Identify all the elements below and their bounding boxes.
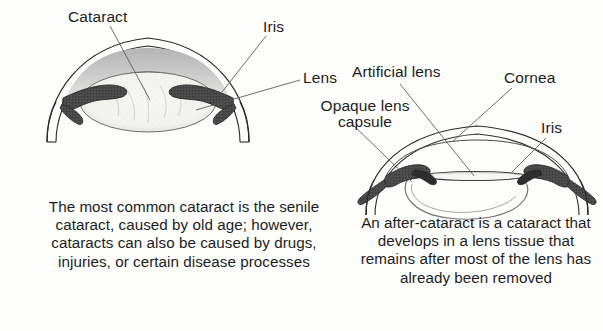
right-opaque-lens-capsule-lower <box>411 184 516 212</box>
label-iris-left: Iris <box>263 19 284 36</box>
left-eye-group <box>47 26 300 142</box>
leader-opaque-capsule <box>352 124 412 182</box>
left-sclera-lower-left <box>47 102 56 142</box>
label-artificial-lens: Artificial lens <box>352 64 441 81</box>
label-cataract: Cataract <box>68 9 127 26</box>
diagram-page: Cataract Iris Lens Artificial lens Opaqu… <box>0 0 603 331</box>
label-lens: Lens <box>303 70 337 87</box>
caption-right-after-cataract: An after-cataract is a cataract that dev… <box>356 214 596 287</box>
right-opaque-lens-capsule <box>405 177 528 219</box>
leader-iris-left <box>222 36 266 92</box>
label-opaque-lens-capsule-line1: Opaque lens <box>313 98 417 114</box>
left-sclera-lower-right <box>240 102 249 142</box>
label-cornea: Cornea <box>504 70 555 87</box>
label-opaque-lens-capsule: Opaque lens capsule <box>313 98 417 131</box>
caption-left-cataract: The most common cataract is the senile c… <box>24 198 344 271</box>
label-opaque-lens-capsule-line2: capsule <box>313 114 417 130</box>
leader-cornea <box>452 88 512 142</box>
label-iris-right: Iris <box>541 120 562 137</box>
